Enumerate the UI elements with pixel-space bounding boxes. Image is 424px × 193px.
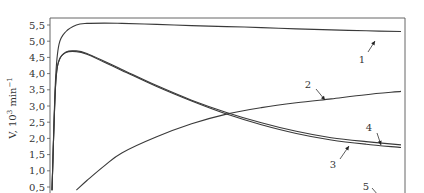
arrowhead-icon (371, 41, 375, 45)
curve-label-5: 5 (363, 181, 369, 192)
y-axis-ticks: 0,51,01,52,02,53,03,54,04,55,05,5 (29, 20, 50, 193)
data-curves (52, 23, 401, 190)
y-tick-label: 1,0 (29, 165, 45, 176)
curve-label-4: 4 (366, 122, 372, 133)
line-chart: 0,51,01,52,02,53,03,54,04,55,05,5 V, 103… (0, 0, 424, 193)
y-axis-title: V, 103 min−1 (6, 77, 18, 140)
curve-label-1: 1 (359, 54, 365, 65)
y-tick-label: 3,5 (29, 84, 45, 95)
y-tick-label: 4,5 (29, 52, 45, 63)
y-tick-label: 5,5 (29, 20, 45, 31)
y-tick-label: 5,0 (29, 36, 45, 47)
curve-4 (52, 51, 401, 191)
arrowhead-icon (345, 146, 349, 150)
y-tick-label: 2,5 (29, 117, 45, 128)
curve-label-2: 2 (305, 79, 311, 90)
curve-label-3: 3 (330, 159, 336, 170)
curve-labels: 12345 (305, 41, 382, 193)
y-tick-label: 2,0 (29, 133, 45, 144)
y-tick-label: 1,5 (29, 149, 45, 160)
leader-line (372, 188, 378, 193)
y-tick-label: 4,0 (29, 68, 45, 79)
y-tick-label: 0,5 (29, 182, 45, 193)
curve-3 (52, 51, 401, 190)
y-axis-label: V, 103 min−1 (6, 77, 18, 140)
curve-1 (52, 23, 401, 190)
y-tick-label: 3,0 (29, 101, 45, 112)
